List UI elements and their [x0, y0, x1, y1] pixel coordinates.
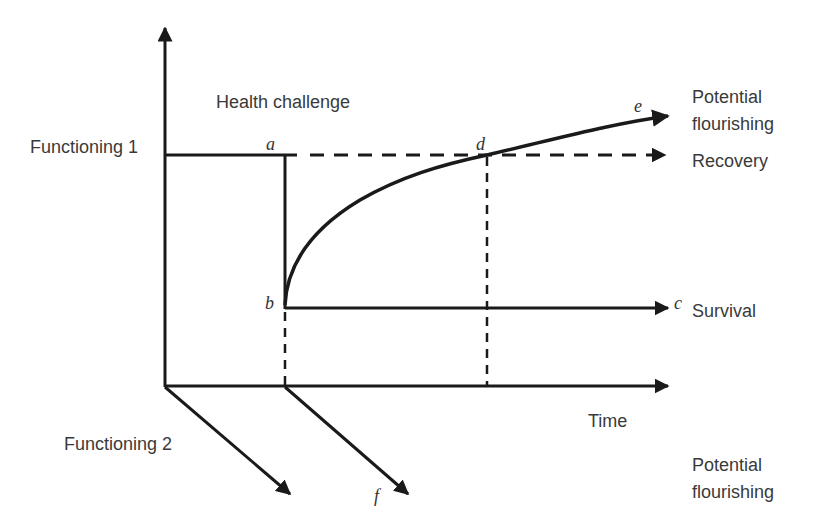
- functioning-2-label: Functioning 2: [64, 433, 172, 455]
- flourishing-bottom-label-line1: Potential: [692, 454, 762, 476]
- functioning-2-axis: [165, 387, 290, 494]
- flourishing-top-label-line2: flourishing: [692, 113, 774, 135]
- point-b-label: b: [265, 293, 274, 313]
- f-flourishing-arrow: [285, 387, 408, 494]
- recovery-label: Recovery: [692, 150, 768, 172]
- point-a-label: a: [266, 134, 275, 154]
- time-label: Time: [588, 410, 627, 432]
- point-c-label: c: [674, 293, 682, 313]
- flourishing-top-label-line1: Potential: [692, 86, 762, 108]
- point-f-label: f: [374, 486, 379, 506]
- survival-label: Survival: [692, 300, 756, 322]
- point-e-label: e: [634, 96, 642, 116]
- flourishing-bottom-label-line2: flourishing: [692, 481, 774, 503]
- health-challenge-label: Health challenge: [216, 91, 350, 113]
- point-d-label: d: [476, 134, 485, 154]
- functioning-1-label: Functioning 1: [30, 136, 138, 158]
